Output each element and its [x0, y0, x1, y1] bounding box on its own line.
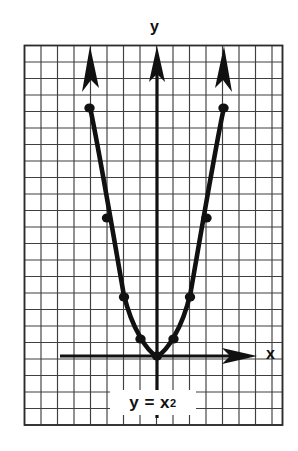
y-axis-label: y: [150, 18, 159, 36]
figure-canvas: y x y = x2: [0, 0, 298, 451]
data-point: [218, 103, 228, 112]
paper-background: [0, 0, 298, 451]
equation-base: y = x: [129, 393, 170, 413]
data-point: [201, 213, 211, 222]
data-point: [152, 351, 162, 360]
data-point: [84, 103, 94, 112]
graph-plot: [0, 0, 298, 451]
data-point: [119, 292, 129, 301]
data-point: [135, 334, 145, 343]
x-axis-label: x: [266, 345, 275, 363]
data-point: [185, 292, 195, 301]
data-point: [168, 334, 178, 343]
data-point: [102, 213, 112, 222]
equation-label: y = x2: [110, 390, 196, 415]
